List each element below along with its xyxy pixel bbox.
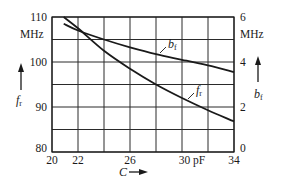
- right-tick-label: 0: [240, 142, 246, 154]
- left-axis-unit: MHz: [20, 28, 44, 40]
- grid-lines: [52, 17, 234, 152]
- x-tick-label: 34: [228, 154, 240, 166]
- x-tick-label: 20: [46, 154, 58, 166]
- left-axis-symbol: fr: [16, 93, 22, 108]
- fr-curve-label: fr: [188, 83, 202, 99]
- svg-text:fr: fr: [196, 83, 202, 98]
- left-axis-arrow-icon: [18, 63, 24, 90]
- left-tick-label: 80: [36, 142, 48, 154]
- right-axis-unit: MHz: [240, 28, 264, 40]
- right-axis-symbol: bf: [254, 87, 263, 102]
- x-axis-arrow-icon: [129, 169, 148, 175]
- chart-canvas: 8090100110 0246 20222630 pF34 MHz MHz fr…: [0, 0, 282, 185]
- x-axis-ticks: 20222630 pF34: [46, 154, 240, 167]
- left-tick-label: 100: [30, 56, 48, 68]
- left-tick-label: 110: [30, 11, 47, 23]
- right-tick-label: 4: [240, 56, 246, 68]
- x-axis-symbol: C: [119, 165, 128, 179]
- right-axis-arrow-icon: [255, 56, 261, 82]
- x-tick-label: 22: [72, 154, 84, 166]
- left-tick-label: 90: [36, 101, 48, 113]
- right-tick-label: 6: [240, 11, 246, 23]
- right-tick-label: 2: [240, 101, 246, 113]
- x-tick-label: 30 pF: [179, 154, 206, 167]
